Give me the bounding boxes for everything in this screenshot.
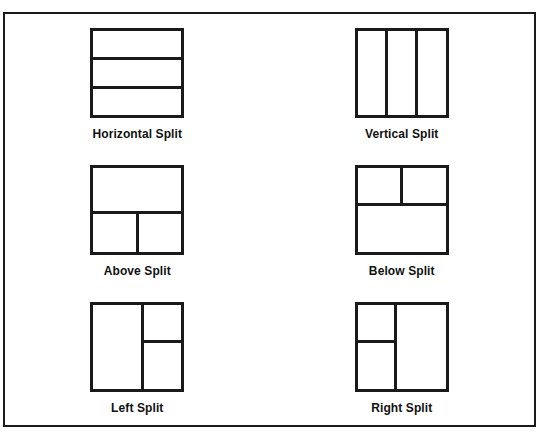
- pane: [358, 206, 446, 252]
- pane-subgroup: [144, 305, 181, 389]
- pane: [93, 214, 139, 252]
- diagram-label: Above Split: [104, 264, 171, 278]
- diagram-cell-left-split: Left Split: [5, 288, 270, 425]
- pane-stack: [358, 305, 446, 389]
- diagram-cell-horizontal-split: Horizontal Split: [5, 14, 270, 151]
- pane: [397, 305, 445, 389]
- right-split-diagram: [355, 302, 449, 392]
- pane-group: [358, 168, 446, 206]
- pane: [403, 168, 446, 203]
- pane-group: [358, 305, 398, 389]
- pane-subgroup: [358, 305, 395, 389]
- pane: [358, 168, 404, 203]
- pane: [358, 305, 395, 343]
- above-split-diagram: [90, 165, 184, 255]
- pane: [93, 60, 181, 89]
- diagram-cell-below-split: Below Split: [270, 151, 535, 288]
- pane-stack: [93, 305, 181, 389]
- pane: [144, 343, 181, 389]
- diagram-label: Below Split: [369, 264, 435, 278]
- pane-group: [144, 305, 181, 389]
- pane: [144, 305, 181, 343]
- pane-stack: [93, 168, 181, 252]
- pane: [93, 89, 181, 115]
- pane-stack: [93, 31, 181, 115]
- pane: [93, 31, 181, 60]
- diagram-label: Vertical Split: [365, 127, 438, 141]
- pane: [139, 214, 182, 252]
- left-split-diagram: [90, 302, 184, 392]
- pane: [358, 343, 395, 389]
- diagram-cell-vertical-split: Vertical Split: [270, 14, 535, 151]
- diagram-label: Right Split: [371, 401, 432, 415]
- horizontal-split-diagram: [90, 28, 184, 118]
- pane-subgroup: [93, 214, 181, 252]
- diagram-cell-right-split: Right Split: [270, 288, 535, 425]
- diagram-label: Horizontal Split: [92, 127, 182, 141]
- diagram-cell-above-split: Above Split: [5, 151, 270, 288]
- pane: [93, 305, 144, 389]
- pane: [358, 31, 388, 115]
- pane-stack: [358, 31, 446, 115]
- pane: [418, 31, 445, 115]
- pane-subgroup: [358, 168, 446, 203]
- below-split-diagram: [355, 165, 449, 255]
- diagram-label: Left Split: [111, 401, 163, 415]
- pane: [388, 31, 418, 115]
- pane-stack: [358, 168, 446, 252]
- figure-border: Horizontal Split Vertical Split: [3, 12, 536, 427]
- diagram-grid: Horizontal Split Vertical Split: [5, 14, 534, 425]
- pane-group: [93, 214, 181, 252]
- pane: [93, 168, 181, 214]
- vertical-split-diagram: [355, 28, 449, 118]
